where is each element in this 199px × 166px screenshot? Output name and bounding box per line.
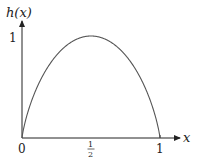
origin-label: 0 xyxy=(18,142,26,156)
entropy-curve xyxy=(22,36,160,138)
x-tick-half-num: 1 xyxy=(88,140,93,149)
y-tick-one-label: 1 xyxy=(9,31,17,45)
x-axis-label: x xyxy=(183,130,191,145)
y-axis-label: h(x) xyxy=(6,5,32,20)
x-tick-one-label: 1 xyxy=(156,142,164,156)
x-tick-half-den: 2 xyxy=(88,150,93,159)
chart: h(x) 1 0 1 2 1 x xyxy=(0,0,199,166)
